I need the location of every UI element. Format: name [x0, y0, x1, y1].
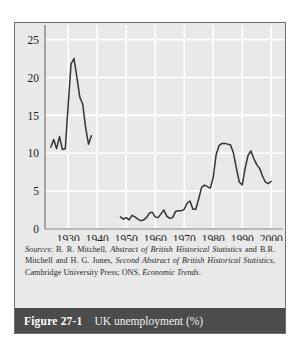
- svg-text:1940: 1940: [86, 233, 109, 242]
- chart-background: [15, 23, 285, 241]
- svg-text:20: 20: [28, 72, 40, 84]
- svg-text:1950: 1950: [115, 233, 138, 242]
- svg-text:1990: 1990: [231, 233, 254, 242]
- figure-card: 0510152025 19301940195019601970198019902…: [14, 22, 286, 334]
- figure-caption-bar: Figure 27-1 UK unemployment (%): [15, 308, 285, 333]
- sources-note: Sources: B. R. Mitchell, Abstract of Bri…: [25, 244, 275, 278]
- sources-italic-3: Economic Trends: [142, 268, 199, 277]
- unemployment-line-chart: 0510152025 19301940195019601970198019902…: [15, 23, 285, 241]
- svg-text:1960: 1960: [144, 233, 167, 242]
- figure-number: Figure 27-1: [24, 315, 83, 327]
- chart-plot-region: 0510152025 19301940195019601970198019902…: [15, 23, 285, 241]
- svg-text:25: 25: [28, 34, 40, 46]
- svg-text:0: 0: [33, 223, 39, 235]
- svg-text:1970: 1970: [173, 233, 196, 242]
- svg-text:15: 15: [28, 110, 40, 122]
- sources-text-4: .: [199, 268, 201, 277]
- svg-text:5: 5: [33, 185, 39, 197]
- sources-text-1: B. R. Mitchell,: [56, 245, 110, 254]
- sources-italic-2: Second Abstract of British Historical St…: [116, 256, 273, 265]
- figure-title: UK unemployment (%): [95, 315, 204, 327]
- svg-text:10: 10: [28, 147, 40, 159]
- svg-text:2000: 2000: [260, 233, 283, 242]
- sources-label: Sources: [25, 245, 51, 254]
- svg-text:1980: 1980: [202, 233, 225, 242]
- sources-italic-1: Abstract of British Historical Statistic…: [110, 245, 242, 254]
- svg-text:1930: 1930: [57, 233, 80, 242]
